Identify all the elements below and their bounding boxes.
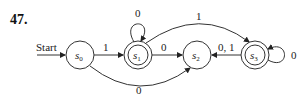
edge-label: 0 xyxy=(161,41,167,53)
state-label: s3 xyxy=(250,49,258,63)
state-s1: s1 xyxy=(124,41,152,69)
state-label: s0 xyxy=(75,49,83,63)
edge-label: 0 xyxy=(291,49,297,61)
state-s2: s2 xyxy=(183,41,211,69)
state-diagram: 47. Start s0 s1 s2 s3 1 0 0 0 1 0, 1 0 xyxy=(0,0,302,98)
edge-label: 1 xyxy=(196,10,202,22)
start-label: Start xyxy=(36,41,57,53)
edge-label: 0 xyxy=(136,84,142,96)
edge-label: 0 xyxy=(135,7,141,19)
state-label: s1 xyxy=(133,49,141,63)
state-s3: s3 xyxy=(241,41,269,69)
edge-label: 1 xyxy=(103,41,109,53)
state-label: s2 xyxy=(192,49,200,63)
edge-s1-loop xyxy=(131,24,145,42)
state-s0: s0 xyxy=(66,41,94,69)
problem-number: 47. xyxy=(10,12,28,27)
edge-s3-loop xyxy=(268,47,285,63)
edge-label: 0, 1 xyxy=(218,41,235,53)
